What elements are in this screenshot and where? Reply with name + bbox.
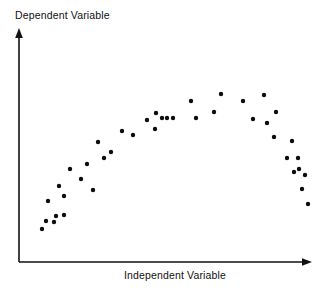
data-point (91, 188, 95, 192)
data-point-group (40, 92, 310, 231)
data-point (145, 118, 149, 122)
data-point (154, 111, 158, 115)
data-point (57, 184, 61, 188)
axes-group (15, 28, 312, 266)
data-point (251, 117, 255, 121)
data-point (40, 227, 44, 231)
data-point (131, 133, 135, 137)
data-point (62, 213, 66, 217)
data-point (85, 162, 89, 166)
x-axis-arrowhead (302, 258, 312, 266)
data-point (153, 127, 157, 131)
data-point (44, 219, 48, 223)
data-point (296, 156, 300, 160)
plot-canvas (0, 0, 330, 290)
data-point (290, 139, 294, 143)
data-point (265, 121, 269, 125)
data-point (109, 150, 113, 154)
data-point (68, 167, 72, 171)
data-point (303, 173, 307, 177)
data-point (54, 214, 58, 218)
data-point (272, 135, 276, 139)
data-point (79, 177, 83, 181)
data-point (274, 110, 278, 114)
data-point (219, 92, 223, 96)
data-point (285, 156, 289, 160)
data-point (165, 116, 169, 120)
data-point (46, 199, 50, 203)
x-axis-label: Independent Variable (0, 270, 330, 281)
data-point (62, 194, 66, 198)
data-point (189, 99, 193, 103)
data-point (212, 110, 216, 114)
data-point (262, 93, 266, 97)
data-point (297, 167, 301, 171)
data-point (194, 116, 198, 120)
scatter-plot-figure: Dependent Variable Independent Variable (0, 0, 330, 290)
data-point (96, 140, 100, 144)
data-point (52, 220, 56, 224)
data-point (160, 116, 164, 120)
data-point (306, 202, 310, 206)
data-point (292, 170, 296, 174)
data-point (102, 156, 106, 160)
data-point (300, 187, 304, 191)
data-point (120, 129, 124, 133)
data-point (171, 116, 175, 120)
y-axis-arrowhead (15, 28, 23, 38)
data-point (241, 99, 245, 103)
